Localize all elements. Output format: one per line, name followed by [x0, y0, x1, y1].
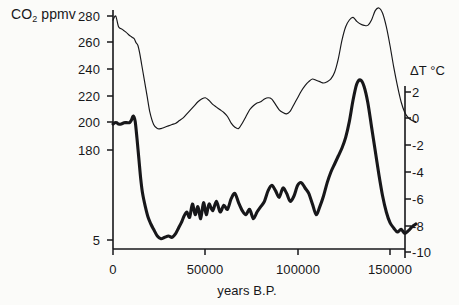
left-axis-title-subscript: 2: [32, 14, 37, 24]
left-tick-label: 280: [60, 9, 100, 24]
right-tick-label: -6: [412, 192, 452, 207]
left-tick-label: 240: [60, 62, 100, 77]
x-tick-label: 50000: [165, 262, 245, 277]
co2-temperature-figure: CO2 ppmv ΔT °C years B.P. 280 260 240 22…: [0, 0, 459, 305]
left-tick-label: 220: [60, 89, 100, 104]
left-tick-label: 260: [60, 35, 100, 50]
temperature-curve: [113, 80, 416, 239]
axis-lines: [113, 10, 405, 258]
right-tick-label: -2: [412, 138, 452, 153]
x-tick-label: 150000: [350, 262, 430, 277]
left-axis-title-main: CO: [11, 6, 32, 22]
x-axis-title: years B.P.: [217, 283, 276, 298]
left-axis-ticks: [107, 16, 113, 240]
x-tick-label: 100000: [258, 262, 338, 277]
x-tick-label: 0: [73, 262, 153, 277]
right-tick-label: -10: [412, 245, 452, 260]
right-tick-label: -4: [412, 165, 452, 180]
left-tick-label: 200: [60, 115, 100, 130]
left-tick-label: 5: [60, 233, 100, 248]
x-axis-ticks: [113, 249, 390, 255]
right-tick-label: 2: [412, 85, 452, 100]
right-axis-title: ΔT °C: [410, 63, 445, 78]
left-tick-label: 180: [60, 143, 100, 158]
right-tick-label: -8: [412, 219, 452, 234]
right-tick-label: 0: [412, 111, 452, 126]
